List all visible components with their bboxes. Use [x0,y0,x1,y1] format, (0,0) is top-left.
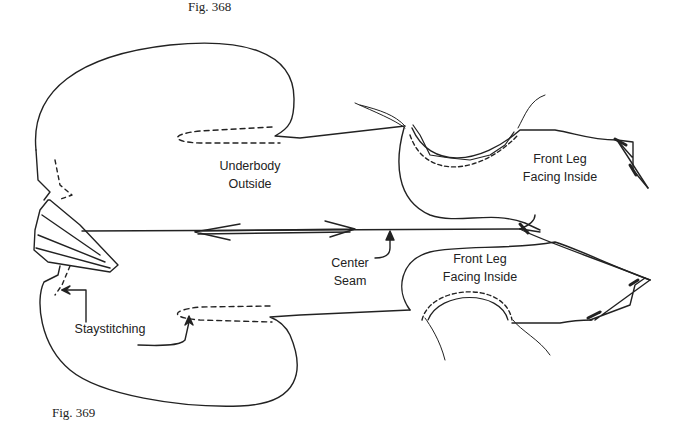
label-underbody-outside: Underbody Outside [210,157,290,193]
pattern-diagram: Fig. 368 Fig. 369 Underbody Outside Fron… [0,0,678,429]
lower-dart-stitch [178,306,273,322]
pleated-folds [34,200,118,272]
figure-caption-bottom: Fig. 369 [52,405,95,421]
figure-caption-top: Fig. 368 [188,0,231,15]
upper-dart-stitch [178,127,281,143]
top-leg-stitch [410,135,518,167]
staystitch-pointer-left [62,290,86,322]
label-front-leg-top: Front Leg Facing Inside [510,150,610,186]
label-center-seam: Center Seam [320,254,380,290]
label-staystitching: Staystitching [65,320,155,338]
upper-underbody-outline [36,43,405,150]
pattern-drawing [0,0,678,429]
label-front-leg-bottom: Front Leg Facing Inside [430,250,530,286]
